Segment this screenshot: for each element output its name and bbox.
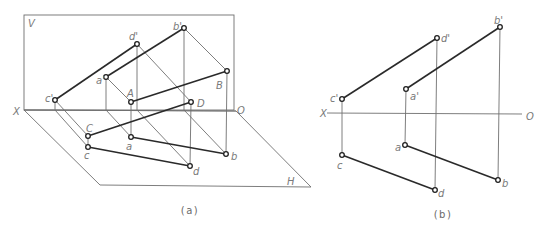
point-a_prime-label: a'	[410, 91, 419, 102]
segment-line	[406, 27, 500, 89]
point-B-marker	[225, 69, 230, 74]
point-c_prime-label: c'	[45, 93, 53, 104]
segment-line	[88, 102, 191, 136]
point-b-label: b	[502, 178, 508, 189]
point-b_prime-label: b'	[173, 21, 182, 32]
point-d-label: d	[438, 188, 445, 199]
projection-diagram: c'd'a'b'ABDCcabd V H X O (a) c'd'a'b'cad…	[0, 0, 547, 232]
projection-lines	[55, 28, 227, 166]
point-a-marker	[129, 135, 134, 140]
x-axis-label: X	[12, 106, 21, 117]
point-c-label: c	[337, 160, 343, 171]
point-A-label: A	[126, 88, 134, 99]
point-D-marker	[189, 100, 194, 105]
point-D-label: D	[197, 98, 205, 109]
point-a-marker	[403, 143, 408, 148]
point-b_prime-marker	[182, 26, 187, 31]
points	[340, 25, 503, 193]
point-c_prime-marker	[53, 98, 58, 103]
figure-b-caption: (b)	[434, 209, 453, 220]
point-a_prime-marker	[404, 87, 409, 92]
v-plane-label: V	[28, 18, 36, 29]
point-c-marker	[86, 145, 91, 150]
projection-line	[184, 28, 227, 71]
point-a_prime-label: a'	[96, 75, 105, 86]
point-d-marker	[433, 188, 438, 193]
point-b-marker	[224, 152, 229, 157]
h-plane-label: H	[287, 176, 295, 187]
origin-label: O	[237, 105, 245, 116]
projection-line	[190, 102, 191, 166]
point-C-marker	[86, 134, 91, 139]
projection-line	[498, 27, 500, 180]
segment-line	[131, 71, 227, 102]
point-c_prime-marker	[340, 97, 345, 102]
x-axis-line	[327, 113, 522, 114]
point-b-marker	[496, 178, 501, 183]
x-axis-label: X	[319, 108, 328, 119]
segment-line	[55, 44, 137, 100]
segment-line	[342, 38, 437, 99]
point-c-marker	[340, 153, 345, 158]
point-d_prime-label: d'	[129, 31, 138, 42]
point-b-label: b	[231, 151, 237, 162]
figure-a-axonometric-view: c'd'a'b'ABDCcabd V H X O (a)	[12, 15, 311, 216]
segment-line	[342, 155, 435, 190]
point-c_prime-label: c'	[330, 93, 338, 104]
projection-line	[55, 110, 88, 147]
point-labels: c'd'a'b'cadb	[330, 15, 508, 199]
point-d_prime-marker	[135, 42, 140, 47]
point-d_prime-label: d'	[441, 33, 450, 44]
projection-lines	[342, 27, 500, 190]
segment-line	[106, 28, 184, 77]
projection-line	[55, 100, 88, 136]
point-A-marker	[129, 100, 134, 105]
point-d_prime-marker	[435, 36, 440, 41]
figure-b-orthographic-view: c'd'a'b'cadb X O (b)	[319, 15, 534, 220]
point-d-marker	[188, 164, 193, 169]
origin-label: O	[526, 111, 534, 122]
projection-line	[226, 71, 227, 154]
projection-line	[405, 89, 406, 145]
point-a-label: a	[126, 141, 132, 152]
point-b_prime-label: b'	[494, 15, 503, 26]
h-plane	[24, 110, 311, 187]
point-a-label: a	[395, 142, 401, 153]
point-d-label: d	[193, 166, 200, 177]
point-B-label: B	[216, 80, 223, 91]
segment-line	[405, 145, 498, 180]
figure-a-caption: (a)	[181, 205, 199, 216]
point-c-label: c	[84, 150, 90, 161]
line-segments	[342, 27, 500, 190]
point-C-label: C	[86, 123, 93, 134]
